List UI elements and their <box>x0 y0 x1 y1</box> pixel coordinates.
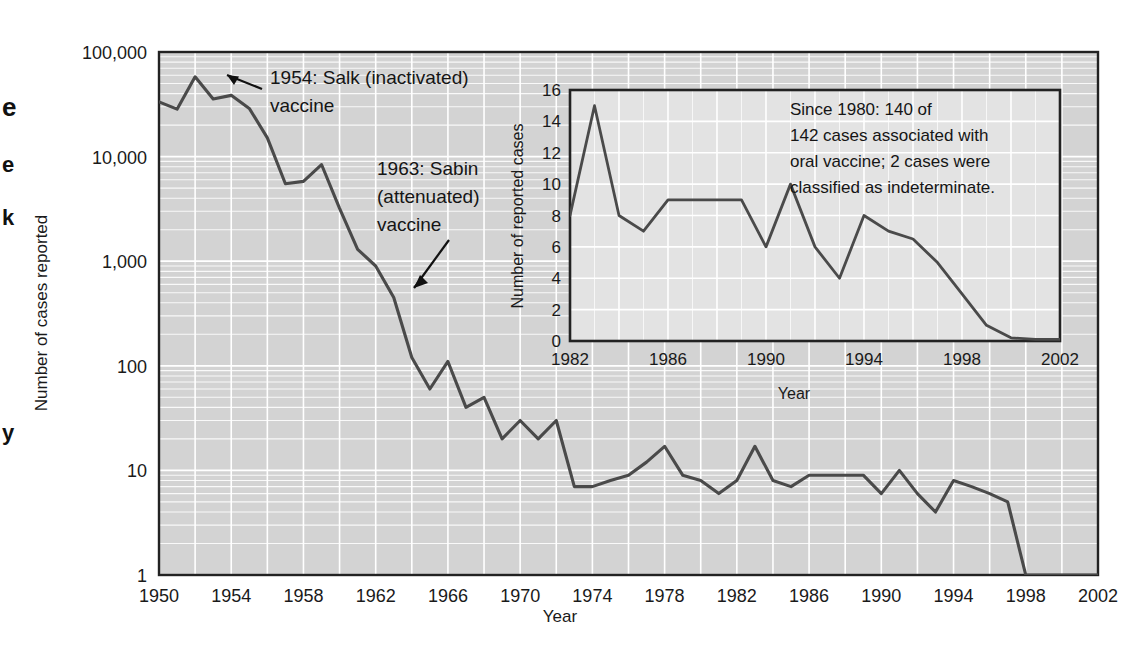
main-xaxis-title: Year <box>543 607 578 626</box>
inset-x-tick-label: 1998 <box>943 350 981 369</box>
sabin-annotation-line3: vaccine <box>377 214 441 235</box>
main-x-tick-label: 2002 <box>1078 586 1118 606</box>
main-y-tick-label: 10,000 <box>92 148 147 168</box>
inset-y-tick-label: 2 <box>552 301 561 320</box>
salk-annotation-line1: 1954: Salk (inactivated) <box>270 67 469 88</box>
inset-x-tick-label: 1986 <box>649 350 687 369</box>
inset-x-tick-label: 1994 <box>845 350 883 369</box>
main-x-tick-label: 1982 <box>717 586 757 606</box>
main-x-tick-label: 1966 <box>428 586 468 606</box>
sabin-annotation-line1: 1963: Sabin <box>377 158 478 179</box>
inset-y-tick-label: 0 <box>552 332 561 351</box>
main-yaxis-title: Number of cases reported <box>32 215 51 412</box>
main-x-tick-label: 1962 <box>356 586 396 606</box>
main-x-tick-label: 1954 <box>211 586 251 606</box>
inset-note-line4: classified as indeterminate. <box>790 178 995 197</box>
inset-y-tick-label: 14 <box>542 112 561 131</box>
inset-note-line3: oral vaccine; 2 cases were <box>790 152 990 171</box>
inset-x-tick-label: 1990 <box>747 350 785 369</box>
inset-yaxis-title: Number of reported cases <box>509 124 526 309</box>
page-edge-fragment: y <box>2 420 14 446</box>
main-x-tick-label: 1978 <box>645 586 685 606</box>
inset-xaxis-title: Year <box>778 385 811 402</box>
main-x-tick-label: 1990 <box>861 586 901 606</box>
page-edge-fragment: e <box>2 92 16 123</box>
main-x-tick-label: 1998 <box>1006 586 1046 606</box>
inset-y-tick-label: 6 <box>552 238 561 257</box>
polio-cases-figure: 100,00010,0001,000100101 195019541958196… <box>0 0 1122 651</box>
main-x-tick-label: 1986 <box>789 586 829 606</box>
main-y-tick-label: 100,000 <box>82 43 147 63</box>
inset-y-tick-label: 16 <box>542 81 561 100</box>
salk-annotation-line2: vaccine <box>270 95 334 116</box>
inset-y-tick-label: 8 <box>552 207 561 226</box>
main-y-tick-label: 10 <box>127 461 147 481</box>
main-x-tick-label: 1994 <box>934 586 974 606</box>
main-x-tick-label: 1970 <box>500 586 540 606</box>
chart-svg: 100,00010,0001,000100101 195019541958196… <box>0 0 1122 651</box>
inset-x-tick-label: 1982 <box>551 350 589 369</box>
inset-note-line2: 142 cases associated with <box>790 126 988 145</box>
page-edge-fragment: e <box>2 152 14 178</box>
main-y-tick-label: 100 <box>117 357 147 377</box>
inset-y-tick-label: 4 <box>552 269 561 288</box>
inset-y-tick-label: 10 <box>542 175 561 194</box>
inset-x-tick-label: 2002 <box>1041 350 1079 369</box>
main-y-tick-label: 1,000 <box>102 252 147 272</box>
main-x-tick-label: 1958 <box>283 586 323 606</box>
main-x-tick-label: 1974 <box>572 586 612 606</box>
main-x-tick-label: 1950 <box>139 586 179 606</box>
main-y-tick-label: 1 <box>137 566 147 586</box>
inset-y-tick-label: 12 <box>542 144 561 163</box>
page-edge-fragment: k <box>2 205 14 231</box>
inset-note-line1: Since 1980: 140 of <box>790 100 932 119</box>
sabin-annotation-line2: (attenuated) <box>377 186 479 207</box>
